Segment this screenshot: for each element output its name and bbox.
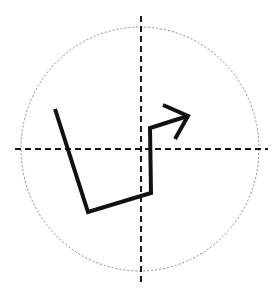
diagram-svg: [0, 0, 279, 300]
diagram-canvas: [0, 0, 279, 300]
arrow-path: [55, 109, 188, 212]
